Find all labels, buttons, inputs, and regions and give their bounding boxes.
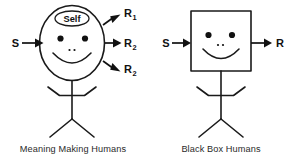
left-leg (199, 119, 221, 137)
response-2-subscript: 2 (133, 43, 137, 52)
right-caption: Black Box Humans (181, 144, 261, 154)
nose-dot-left (217, 44, 219, 46)
nose-dot-right (222, 44, 224, 46)
response-1-subscript: 1 (133, 13, 137, 22)
head-square (191, 11, 251, 71)
left-caption: Meaning Making Humans (20, 144, 127, 154)
panel-black-box-humans: S R Black Box Humans (162, 11, 284, 154)
smile-mouth (203, 49, 239, 59)
response-2-label: R (124, 37, 132, 49)
stimulus-label: S (12, 37, 19, 49)
stimulus-label: S (162, 37, 169, 49)
response-3-label: R (124, 63, 132, 75)
smile-mouth (53, 53, 91, 63)
self-label: Self (63, 14, 81, 24)
response-label: R (276, 37, 284, 49)
left-eye (205, 32, 211, 38)
panel-meaning-making-humans: Self S (12, 6, 137, 155)
right-leg (72, 119, 94, 137)
right-leg (221, 119, 243, 137)
response-3-arrow (103, 61, 121, 72)
nose-dot-left (68, 49, 70, 51)
response-arrow (251, 38, 272, 47)
left-leg (50, 119, 72, 137)
response-3-subscript: 2 (133, 69, 137, 78)
response-1-arrow (103, 15, 121, 26)
nose-dot-right (73, 49, 75, 51)
response-2-arrow (105, 38, 122, 47)
stimulus-arrow (172, 38, 191, 47)
diagram-page: Self S (0, 0, 291, 161)
right-eye (229, 32, 235, 38)
two-panel-stick-figure-diagram: Self S (0, 0, 291, 161)
left-eye (57, 35, 63, 41)
response-1-label: R (124, 7, 132, 19)
right-eye (82, 35, 88, 41)
